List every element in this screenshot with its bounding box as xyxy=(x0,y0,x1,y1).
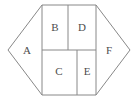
region-label-D: D xyxy=(78,21,86,33)
region-label-B: B xyxy=(51,21,58,33)
region-label-A: A xyxy=(23,44,31,56)
region-label-F: F xyxy=(106,44,112,56)
hexagon-partition-figure: A B D C E F xyxy=(0,0,138,101)
diagram-canvas: A B D C E F xyxy=(0,0,138,101)
region-label-E: E xyxy=(84,65,91,77)
region-label-C: C xyxy=(55,65,62,77)
region-fill-F xyxy=(96,5,130,95)
